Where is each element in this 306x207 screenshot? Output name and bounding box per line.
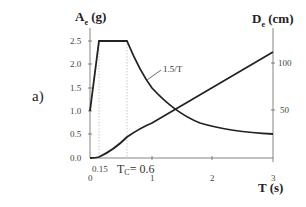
curve-label-leader	[147, 70, 161, 80]
svg-text:2: 2	[210, 173, 215, 183]
x-axis-title: T (s)	[258, 180, 283, 196]
left-y-tick-labels: 2.5 2.0 1.5 1.0 0.5 0.0	[70, 36, 82, 163]
right-y-tick-labels: 100 50	[278, 58, 292, 115]
response-spectrum-chart: 2.5 2.0 1.5 1.0 0.5 0.0 0 1 2 3 100 50 1…	[0, 0, 306, 207]
panel-label: a)	[32, 88, 44, 105]
svg-text:1.0: 1.0	[70, 106, 82, 116]
svg-text:50: 50	[280, 105, 290, 115]
svg-text:0.0: 0.0	[70, 153, 82, 163]
left-axis-title: Ae (g)	[75, 9, 106, 27]
right-axis-title: De (cm)	[252, 11, 293, 29]
svg-text:1.5: 1.5	[70, 83, 82, 93]
svg-text:2.5: 2.5	[70, 36, 82, 46]
svg-text:0.5: 0.5	[70, 129, 82, 139]
curve-label: 1.5/T	[163, 64, 183, 74]
svg-text:100: 100	[278, 58, 292, 68]
tc-label: TC= 0.6	[117, 162, 154, 177]
t015-label: 0.15	[92, 164, 108, 174]
svg-text:0: 0	[88, 173, 93, 183]
acceleration-curve	[90, 41, 273, 134]
svg-text:2.0: 2.0	[70, 59, 82, 69]
